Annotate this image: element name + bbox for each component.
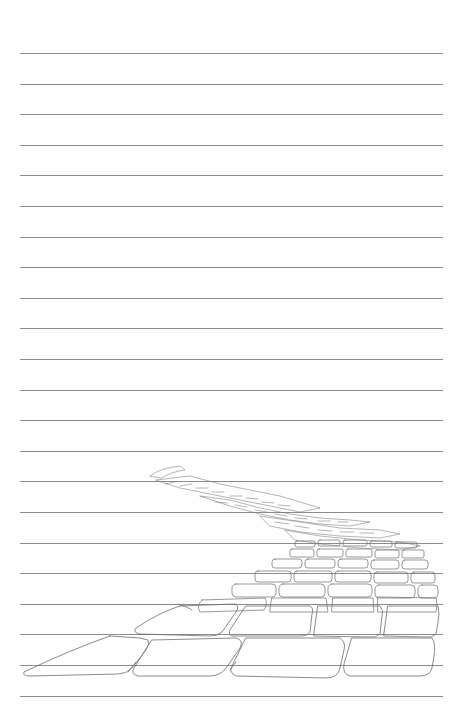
path-near-stones [24, 604, 439, 678]
path-far-stones [150, 466, 420, 550]
cobblestone-path-sketch [0, 0, 464, 727]
lined-paper-page [0, 0, 464, 727]
path-mid-stones [198, 540, 438, 612]
